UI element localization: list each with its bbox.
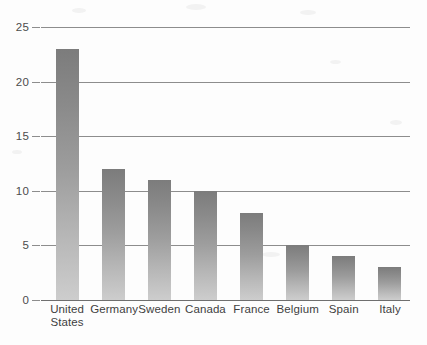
- paper-speckle: [12, 150, 22, 154]
- bar: [56, 49, 79, 300]
- paper-speckle: [72, 8, 86, 13]
- category-axis-labels: UnitedStatesGermanySwedenCanadaFranceBel…: [41, 303, 410, 333]
- paper-speckle: [300, 10, 316, 15]
- y-axis-tick-label: 15: [16, 130, 29, 142]
- category-label-line: Italy: [367, 303, 413, 316]
- bar: [194, 191, 217, 300]
- paper-speckle: [186, 4, 206, 10]
- category-label: Germany: [90, 303, 136, 316]
- category-label: Sweden: [136, 303, 182, 316]
- category-label-line: Belgium: [275, 303, 321, 316]
- category-label: UnitedStates: [44, 303, 90, 328]
- y-axis-tick-mark: [32, 300, 40, 301]
- category-label-line: Spain: [321, 303, 367, 316]
- y-axis-tick-mark: [32, 136, 40, 137]
- category-label-line: Sweden: [136, 303, 182, 316]
- bar: [378, 267, 401, 300]
- category-label-line: States: [44, 316, 90, 329]
- category-label: Spain: [321, 303, 367, 316]
- bar: [240, 213, 263, 300]
- y-axis-tick-mark: [32, 27, 40, 28]
- y-axis-tick-label: 25: [16, 21, 29, 33]
- category-label: Canada: [182, 303, 228, 316]
- category-label-line: Germany: [90, 303, 136, 316]
- y-axis-tick-mark: [32, 245, 40, 246]
- category-label: France: [229, 303, 275, 316]
- chart-figure: 0510152025 UnitedStatesGermanySwedenCana…: [0, 0, 427, 345]
- y-axis-tick-label: 20: [16, 76, 29, 88]
- bar: [332, 256, 355, 300]
- bar-series: [41, 27, 410, 300]
- bar: [148, 180, 171, 300]
- bar: [286, 245, 309, 300]
- y-axis-tick-label: 5: [22, 239, 29, 251]
- y-axis-tick-label: 10: [16, 185, 29, 197]
- plot-area: 0510152025: [41, 27, 410, 300]
- category-label: Italy: [367, 303, 413, 316]
- bar: [102, 169, 125, 300]
- y-axis-tick-label: 0: [22, 294, 29, 306]
- category-label: Belgium: [275, 303, 321, 316]
- category-label-line: Canada: [182, 303, 228, 316]
- category-label-line: France: [229, 303, 275, 316]
- y-axis-tick-mark: [32, 191, 40, 192]
- y-axis-tick-mark: [32, 82, 40, 83]
- category-label-line: United: [44, 303, 90, 316]
- axis-baseline: [41, 300, 410, 301]
